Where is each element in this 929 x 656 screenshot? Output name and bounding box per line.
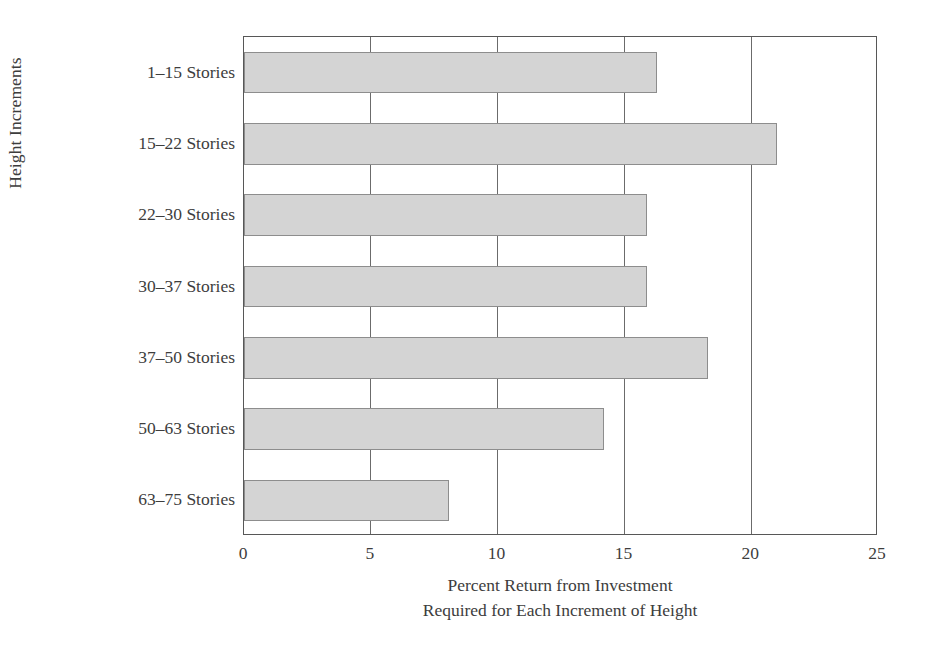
x-axis-tick-label: 10 [467,541,527,565]
x-axis-tick-labels: 0510152025 [0,541,929,569]
x-axis-title-line-1: Percent Return from Investment [243,573,877,598]
bar-chart: Height Increments 1–15 Stories15–22 Stor… [0,0,929,656]
y-axis-tick-label: 30–37 Stories [45,277,235,295]
gridline-20 [751,37,752,534]
x-axis-tick-label: 5 [340,541,400,565]
bar [244,408,604,450]
x-axis-tick-label: 20 [720,541,780,565]
y-axis-tick-label: 50–63 Stories [45,419,235,437]
x-axis-tick-label: 0 [213,541,273,565]
bar [244,480,449,522]
x-axis-tick-label: 15 [593,541,653,565]
x-axis-title-line-2: Required for Each Increment of Height [243,598,877,623]
y-axis-tick-label: 22–30 Stories [45,205,235,223]
plot-area [243,36,877,535]
bar [244,194,647,236]
bar [244,266,647,308]
y-axis-tick-label: 63–75 Stories [45,490,235,508]
y-axis-tick-label: 15–22 Stories [45,134,235,152]
bar [244,337,708,379]
x-axis-tick-label: 25 [847,541,907,565]
y-axis-tick-label: 1–15 Stories [45,63,235,81]
x-axis-title: Percent Return from Investment Required … [243,573,877,623]
bar [244,123,777,165]
y-axis-tick-label: 37–50 Stories [45,348,235,366]
y-axis-title: Height Increments [0,28,30,218]
bar [244,52,657,94]
